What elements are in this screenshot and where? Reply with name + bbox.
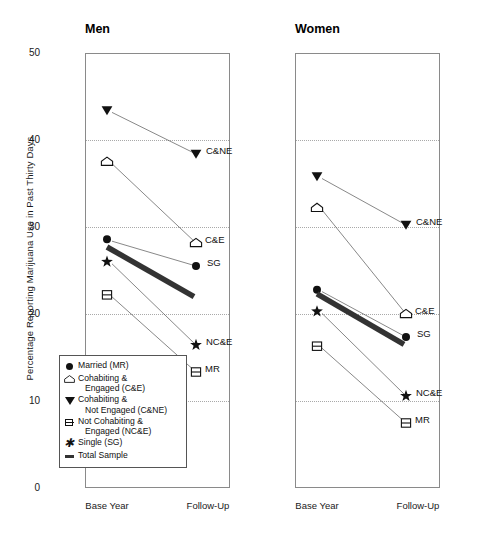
series-label-men-cne: C&NE [206, 145, 232, 156]
legend-label-ce-line1: Cohabiting & [78, 373, 127, 383]
legend-item-cohabiting-not-engaged: Cohabiting & Not Engaged (C&NE) [63, 394, 183, 414]
series-label-women-sg: SG [417, 328, 431, 339]
series-label-men-mr: MR [205, 363, 220, 374]
legend-label-ce-line2: Engaged (C&E) [78, 383, 145, 393]
series-label-women-nce: NC&E [416, 387, 442, 398]
y-tick-10: 10 [18, 395, 40, 406]
open-home-pentagon-icon [63, 373, 77, 385]
open-square-barred-icon [63, 416, 77, 428]
series-label-men-nce: NC&E [206, 336, 232, 347]
gridline-10 [296, 401, 439, 402]
legend-item-married: Married (MR) [63, 360, 183, 372]
legend-item-cohabiting-engaged: Cohabiting & Engaged (C&E) [63, 373, 183, 393]
gridline-40 [296, 140, 439, 141]
series-label-women-mr: MR [415, 414, 430, 425]
y-tick-30: 30 [18, 221, 40, 232]
x-tick-women-base: Base Year [295, 500, 338, 511]
legend-label-nce-line2: Engaged (NC&E) [78, 426, 151, 436]
legend-label-total-sample: Total Sample [78, 450, 128, 460]
legend-label-married-line1: Married (MR) [78, 360, 129, 370]
legend-label-nce-line1: Not Cohabiting & [78, 416, 143, 426]
gridline-40 [86, 140, 229, 141]
series-label-women-cne: C&NE [416, 216, 442, 227]
thick-line-icon [63, 450, 77, 462]
gridline-30 [86, 227, 229, 228]
y-tick-50: 50 [18, 47, 40, 58]
y-axis-tick-group: 50 40 30 20 10 0 [14, 0, 40, 542]
gridline-30 [296, 227, 439, 228]
star-icon: ✱ [63, 437, 77, 449]
legend-label-cne-line1: Cohabiting & [78, 394, 127, 404]
filled-circle-icon [63, 360, 77, 372]
panel-title-men: Men [85, 22, 110, 36]
series-label-men-sg: SG [207, 257, 221, 268]
gridline-20 [86, 314, 229, 315]
series-label-women-ce: C&E [415, 305, 435, 316]
x-tick-men-follow: Follow-Up [187, 500, 230, 511]
legend-item-total-sample: Total Sample [63, 450, 183, 462]
legend-label-single: Single (SG) [78, 437, 122, 447]
x-tick-women-follow: Follow-Up [397, 500, 440, 511]
y-tick-0: 0 [18, 482, 40, 493]
y-tick-40: 40 [18, 134, 40, 145]
legend-item-not-cohabiting-engaged: Not Cohabiting & Engaged (NC&E) [63, 416, 183, 436]
legend-label-cne-line2: Not Engaged (C&NE) [78, 405, 167, 415]
legend-item-single: ✱ Single (SG) [63, 437, 183, 449]
panel-title-women: Women [295, 22, 340, 36]
x-tick-men-base: Base Year [85, 500, 128, 511]
figure-root: Percentage Reporting Marijuana Use in Pa… [0, 0, 483, 542]
filled-triangle-down-icon [63, 394, 77, 406]
y-tick-20: 20 [18, 308, 40, 319]
legend: Married (MR) Cohabiting & Engaged (C&E) … [59, 355, 187, 468]
series-label-men-ce: C&E [205, 234, 225, 245]
